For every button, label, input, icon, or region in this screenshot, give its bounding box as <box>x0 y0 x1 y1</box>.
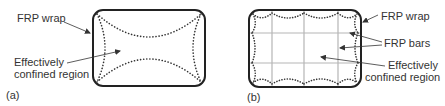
frp-wrap-outline-a <box>93 10 205 86</box>
wrap-leader-a <box>64 22 90 33</box>
panel-a: FRP wrap Effectively confined region (a) <box>6 10 205 101</box>
frp-bars-grid <box>250 11 360 86</box>
label-frp-bars-b: FRP bars <box>384 37 431 49</box>
label-frp-wrap-b: FRP wrap <box>381 10 430 22</box>
confinement-arches-a <box>97 14 201 82</box>
region-leader-b <box>321 57 385 66</box>
panel-tag-b: (b) <box>247 91 260 103</box>
label-region-a-line2: confined region <box>14 68 89 80</box>
wrap-leader-b <box>363 15 378 22</box>
panel-tag-a: (a) <box>6 89 19 101</box>
label-region-b-line2: confined region <box>365 71 440 83</box>
label-region-a-line1: Effectively <box>14 56 64 68</box>
bars-leader-b1 <box>350 33 382 42</box>
panel-b: FRP wrap FRP bars Effectively confined r… <box>247 10 440 103</box>
frp-wrap-outline-b <box>249 10 361 87</box>
label-region-b-line1: Effectively <box>388 59 438 71</box>
label-frp-wrap-a: FRP wrap <box>17 12 66 24</box>
confinement-arches-b <box>252 13 358 84</box>
confinement-diagram: FRP wrap Effectively confined region (a) <box>0 0 445 106</box>
